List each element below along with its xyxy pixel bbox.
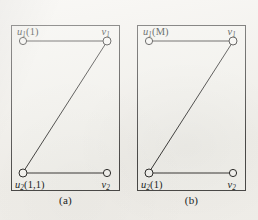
- panel-a-node-u2[interactable]: [19, 169, 27, 177]
- panel-b-node-u2[interactable]: [145, 169, 153, 177]
- panel-a-label-v2: v2: [102, 180, 110, 191]
- panel-a-node-v2[interactable]: [103, 169, 110, 176]
- panel-a-label-u1: u1(1): [17, 27, 39, 38]
- panel-b-edge-v1-u2: [151, 44, 231, 169]
- figure-panel-b: u1(M) v1 u2(1) v2: [137, 25, 246, 191]
- panel-b-label-u2: u2(1): [141, 180, 163, 191]
- figure-panel-a: u1(1) v1 u2(1,1) v2: [11, 25, 120, 191]
- panel-b-label-u1: u1(M): [143, 27, 169, 38]
- panel-b-label-v2: v2: [228, 180, 236, 191]
- panel-a-label-v1: v1: [102, 27, 110, 38]
- panel-a-graph: [11, 25, 120, 191]
- panel-a-label-u2: u2(1,1): [15, 180, 45, 191]
- figure-canvas: u1(1) v1 u2(1,1) v2 (a) u1(M) v1 u2(1) v…: [0, 0, 258, 220]
- panel-a-edge-v1-u2: [25, 44, 105, 169]
- panel-b-node-v2[interactable]: [229, 169, 236, 176]
- panel-b-caption: (b): [137, 194, 246, 206]
- panel-b-graph: [137, 25, 246, 191]
- panel-b-label-v1: v1: [228, 27, 236, 38]
- panel-a-caption: (a): [11, 194, 120, 206]
